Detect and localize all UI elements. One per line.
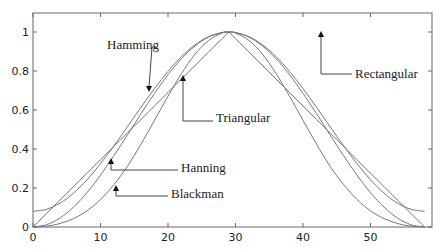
y-tick-label: 0.8 bbox=[12, 65, 30, 78]
annotation-triangular: Triangular bbox=[180, 75, 271, 125]
curve-triangular bbox=[33, 32, 425, 227]
window-functions-chart: 0102030405000.20.40.60.81 HammingTriangu… bbox=[0, 0, 446, 252]
leader-line bbox=[321, 36, 352, 74]
window-curves bbox=[33, 32, 425, 227]
x-tick-label: 20 bbox=[161, 231, 175, 244]
x-tick-label: 40 bbox=[296, 231, 310, 244]
x-tick-label: 30 bbox=[229, 231, 243, 244]
y-tick-label: 0.4 bbox=[12, 143, 30, 156]
leader-line bbox=[183, 80, 213, 121]
y-tick-label: 0 bbox=[22, 221, 29, 234]
annotation-label: Hamming bbox=[107, 37, 159, 52]
leader-line bbox=[116, 190, 168, 196]
arrow-icon bbox=[108, 158, 114, 164]
y-tick-label: 0.6 bbox=[12, 104, 30, 117]
annotation-label: Hanning bbox=[181, 160, 226, 175]
annotation-blackman: Blackman bbox=[113, 185, 224, 201]
annotation-hamming: Hamming bbox=[107, 37, 159, 92]
curve-blackman bbox=[33, 32, 425, 227]
arrow-icon bbox=[113, 185, 119, 191]
annotation-label: Rectangular bbox=[355, 66, 418, 81]
annotation-label: Triangular bbox=[216, 110, 271, 125]
curve-hanning bbox=[33, 32, 425, 227]
arrow-icon bbox=[146, 86, 152, 92]
leader-line bbox=[111, 163, 178, 170]
curve-annotations: HammingTriangularRectangularHanningBlack… bbox=[107, 31, 418, 201]
leader-line bbox=[149, 47, 157, 87]
annotation-rectangular: Rectangular bbox=[318, 31, 418, 81]
annotation-label: Blackman bbox=[171, 186, 224, 201]
x-tick-label: 0 bbox=[30, 231, 37, 244]
y-tick-label: 0.2 bbox=[12, 182, 30, 195]
y-tick-label: 1 bbox=[22, 26, 29, 39]
x-tick-label: 10 bbox=[94, 231, 108, 244]
annotation-hanning: Hanning bbox=[108, 158, 226, 175]
arrow-icon bbox=[318, 31, 324, 37]
x-tick-label: 50 bbox=[364, 231, 378, 244]
